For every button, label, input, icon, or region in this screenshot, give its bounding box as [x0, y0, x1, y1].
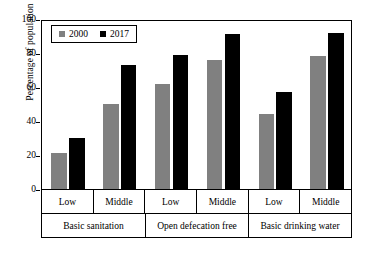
bar-2000 [310, 56, 326, 189]
bar-slot [146, 21, 198, 189]
x-axis-subgroup-row: LowMiddleLowMiddleLowMiddle [41, 190, 352, 214]
bar-2000 [207, 60, 223, 189]
x-subgroup-label: Low [42, 190, 93, 213]
y-tick-mark-100 [36, 20, 40, 21]
x-group-label: Basic drinking water [248, 214, 351, 237]
y-tick-label-20: 20 [12, 151, 36, 160]
y-tick-mark-80 [36, 54, 40, 55]
bar-2000 [259, 114, 275, 189]
bar-2000 [51, 153, 67, 189]
y-tick-mark-0 [36, 190, 40, 191]
legend-swatch-2000-icon [59, 31, 65, 37]
y-tick-label-80: 80 [12, 49, 36, 58]
bar-2017 [276, 92, 292, 189]
bar-2017 [69, 138, 85, 189]
bar-2017 [225, 34, 241, 189]
y-tick-mark-60 [36, 88, 40, 89]
bar-slot [198, 21, 250, 189]
x-subgroup-label: Middle [93, 190, 145, 213]
x-axis-group-row: Basic sanitationOpen defecation freeBasi… [41, 214, 352, 238]
y-tick-label-100: 100 [12, 15, 36, 24]
plot-area [41, 20, 352, 190]
x-subgroup-label: Middle [299, 190, 351, 213]
bar-2017 [121, 65, 137, 189]
bar-slot [94, 21, 146, 189]
bar-chart-figure: Percentage of population 020406080100 20… [0, 0, 367, 254]
bars-container [42, 21, 351, 189]
y-tick-mark-40 [36, 122, 40, 123]
bar-slot [249, 21, 301, 189]
x-subgroup-label: Middle [196, 190, 248, 213]
bar-slot [301, 21, 353, 189]
x-group-label: Open defecation free [145, 214, 248, 237]
y-tick-label-60: 60 [12, 83, 36, 92]
x-group-label: Basic sanitation [42, 214, 145, 237]
legend-swatch-2017-icon [100, 31, 106, 37]
bar-slot [42, 21, 94, 189]
legend: 2000 2017 [51, 25, 137, 43]
x-subgroup-label: Low [248, 190, 300, 213]
y-tick-label-0: 0 [12, 185, 36, 194]
legend-item-2000: 2000 [59, 29, 88, 39]
y-axis-ticks: 020406080100 [0, 0, 36, 254]
bar-2000 [155, 84, 171, 189]
bar-2017 [173, 55, 189, 189]
legend-label-2000: 2000 [69, 29, 88, 39]
x-subgroup-label: Low [144, 190, 196, 213]
legend-item-2017: 2017 [100, 29, 129, 39]
legend-label-2017: 2017 [110, 29, 129, 39]
bar-2000 [103, 104, 119, 189]
x-axis: LowMiddleLowMiddleLowMiddle Basic sanita… [41, 190, 352, 238]
y-tick-label-40: 40 [12, 117, 36, 126]
bar-2017 [328, 33, 344, 189]
y-tick-mark-20 [36, 156, 40, 157]
